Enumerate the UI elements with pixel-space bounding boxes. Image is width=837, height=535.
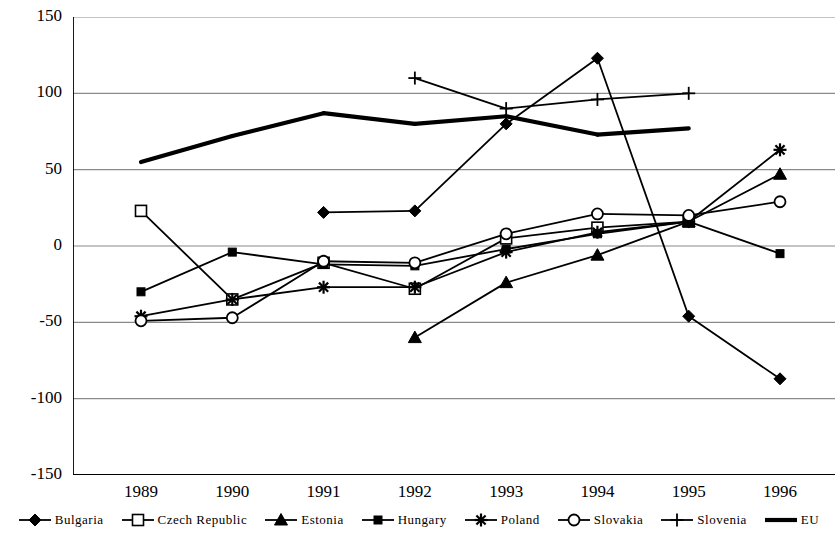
data-point-marker <box>671 514 684 527</box>
series-line-segment <box>232 113 323 136</box>
x-tick-label: 1991 <box>284 482 364 502</box>
x-tick-label: 1994 <box>557 482 637 502</box>
series-line-segment <box>506 232 597 252</box>
legend-swatch-asterisk-icon <box>464 512 498 528</box>
data-point-marker <box>317 281 330 294</box>
legend-label: Czech Republic <box>158 512 248 528</box>
series-line-segment <box>506 116 597 134</box>
plot-svg <box>73 17 835 475</box>
data-point-marker <box>474 514 487 527</box>
x-tick-label: 1992 <box>375 482 455 502</box>
data-point-marker <box>774 373 786 385</box>
legend-label: Bulgaria <box>55 512 104 528</box>
y-tick-label: -100 <box>0 388 62 408</box>
legend-label: Estonia <box>301 512 344 528</box>
legend-item[interactable]: Poland <box>464 512 540 528</box>
legend-item[interactable]: Bulgaria <box>18 512 104 528</box>
legend-swatch-open-square-icon <box>121 512 155 528</box>
series-line-segment <box>689 202 780 216</box>
x-tick-label: 1989 <box>101 482 181 502</box>
series-estonia <box>408 168 786 343</box>
x-tick-label: 1996 <box>740 482 820 502</box>
data-point-marker <box>408 72 421 85</box>
legend-label: Hungary <box>398 512 447 528</box>
chart-figure: NPR in % 150100500-50-100-150 1989199019… <box>0 0 837 535</box>
x-tick-label: 1993 <box>466 482 546 502</box>
legend-item[interactable]: Slovakia <box>557 512 644 528</box>
data-point-marker <box>568 515 579 526</box>
series-line-segment <box>689 316 780 379</box>
series-line-segment <box>232 252 323 264</box>
legend-swatch-filled-square-icon <box>361 512 395 528</box>
series-line-segment <box>689 150 780 222</box>
series-line-segment <box>324 264 415 266</box>
y-tick-label: 100 <box>0 82 62 102</box>
legend-item[interactable]: EU <box>764 512 819 528</box>
plot-area <box>73 17 835 475</box>
data-point-marker <box>226 293 239 306</box>
data-point-marker <box>132 515 143 526</box>
y-tick-label: 50 <box>0 159 62 179</box>
data-point-marker <box>682 87 695 100</box>
series-line-segment <box>506 255 597 282</box>
data-point-marker <box>501 228 512 239</box>
series-line-segment <box>689 222 780 254</box>
series-line-segment <box>506 214 597 234</box>
series-line-segment <box>141 136 232 162</box>
series-line-segment <box>415 124 506 211</box>
data-point-marker <box>592 208 603 219</box>
data-point-marker <box>774 143 787 156</box>
series-line-segment <box>415 283 506 338</box>
series-line-segment <box>141 299 232 316</box>
legend-swatch-open-circle-icon <box>557 512 591 528</box>
data-point-marker <box>500 246 513 259</box>
series-line-segment <box>415 234 506 263</box>
series-line-segment <box>324 263 415 289</box>
series-line-segment <box>415 116 506 124</box>
data-point-marker <box>136 315 147 326</box>
legend-swatch-plus-icon <box>660 512 694 528</box>
legend-label: Slovenia <box>697 512 747 528</box>
y-tick-label: -50 <box>0 311 62 331</box>
legend-item[interactable]: Slovenia <box>660 512 747 528</box>
data-point-marker <box>591 93 604 106</box>
data-point-marker <box>683 210 694 221</box>
legend-swatch-none-icon <box>764 512 798 528</box>
y-tick-label: 0 <box>0 235 62 255</box>
legend-label: EU <box>801 512 819 528</box>
data-point-marker <box>408 281 421 294</box>
series-slovakia <box>136 196 786 326</box>
series-line-segment <box>506 99 597 108</box>
legend-item[interactable]: Hungary <box>361 512 447 528</box>
series-line-segment <box>324 261 415 263</box>
series-eu <box>141 113 689 162</box>
data-point-marker <box>591 52 603 64</box>
data-point-marker <box>408 331 421 343</box>
data-point-marker <box>683 310 695 322</box>
series-line-segment <box>324 211 415 213</box>
legend-item[interactable]: Czech Republic <box>121 512 248 528</box>
series-poland <box>135 143 787 322</box>
data-point-marker <box>137 288 145 296</box>
series-line-segment <box>597 128 688 134</box>
series-bulgaria <box>318 52 786 385</box>
legend-swatch-filled-diamond-icon <box>18 512 52 528</box>
series-line-segment <box>689 174 780 221</box>
data-point-marker <box>136 205 147 216</box>
legend-item[interactable]: Estonia <box>264 512 344 528</box>
data-point-marker <box>775 196 786 207</box>
data-point-marker <box>228 248 236 256</box>
legend-swatch-filled-triangle-icon <box>264 512 298 528</box>
data-point-marker <box>374 516 382 524</box>
legend-label: Poland <box>501 512 540 528</box>
series-line-segment <box>597 214 688 216</box>
y-tick-label: -150 <box>0 464 62 484</box>
data-point-marker <box>227 312 238 323</box>
x-tick-label: 1995 <box>649 482 729 502</box>
series-line-segment <box>141 318 232 321</box>
x-tick-label: 1990 <box>192 482 272 502</box>
data-point-marker <box>500 102 513 115</box>
data-point-marker <box>318 256 329 267</box>
data-point-marker <box>318 206 330 218</box>
series-line-segment <box>324 113 415 124</box>
